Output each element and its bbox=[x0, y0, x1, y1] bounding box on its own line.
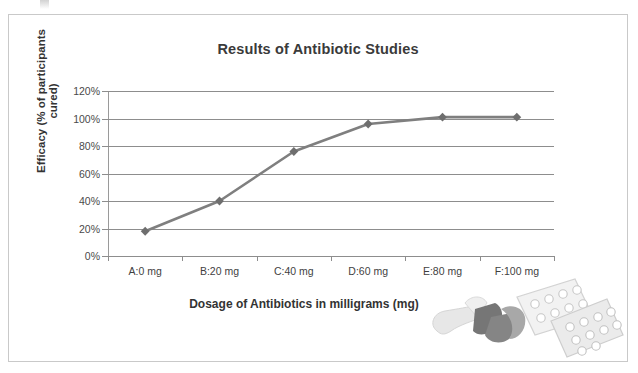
y-axis-tick bbox=[102, 229, 108, 230]
series-line-chart: A:0 mg: 18%B:20 mg: 40%C:40 mg: 76%D:60 … bbox=[9, 15, 629, 363]
y-axis-tick bbox=[102, 146, 108, 147]
data-point-marker: A:0 mg: 18% bbox=[141, 227, 150, 236]
series-line bbox=[145, 117, 517, 231]
x-axis-tick bbox=[108, 256, 109, 261]
chart-frame: Results of Antibiotic Studies Efficacy (… bbox=[8, 14, 628, 362]
x-axis-tick bbox=[331, 256, 332, 261]
scan-artifact bbox=[40, 0, 49, 9]
y-axis-tick bbox=[102, 119, 108, 120]
x-axis-tick bbox=[405, 256, 406, 261]
y-axis-tick bbox=[102, 91, 108, 92]
y-axis-tick bbox=[102, 174, 108, 175]
data-point-marker: E:80 mg: 101% bbox=[438, 113, 447, 122]
x-axis-tick bbox=[182, 256, 183, 261]
data-point-marker: D:60 mg: 96% bbox=[364, 120, 373, 129]
x-axis-tick bbox=[480, 256, 481, 261]
x-axis-tick bbox=[554, 256, 555, 261]
data-point-marker: F:100 mg: 101% bbox=[512, 113, 521, 122]
y-axis-tick bbox=[102, 201, 108, 202]
x-axis-tick bbox=[257, 256, 258, 261]
